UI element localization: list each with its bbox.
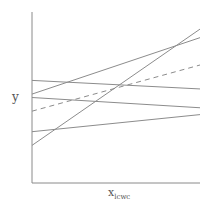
series-line-5 [32,115,200,132]
chart-canvas [0,0,215,205]
series-line-3 [32,98,200,108]
series-group [32,29,200,145]
x-axis-label-subscript: lcwc [114,193,130,201]
y-axis-label-text: y [12,90,19,104]
y-axis-label: y [12,90,19,104]
x-axis-label: xlcwc [108,186,130,201]
